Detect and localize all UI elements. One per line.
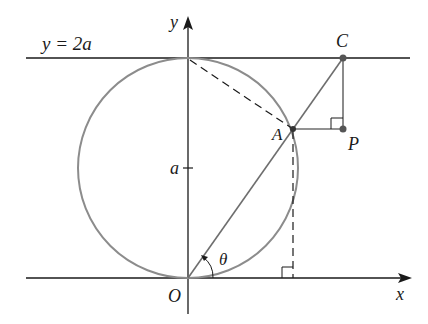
- label-A: A: [271, 125, 283, 144]
- label-origin: O: [168, 286, 181, 306]
- label-C: C: [336, 31, 349, 51]
- point-P: [340, 126, 347, 133]
- diagram-canvas: y = 2a y x O a A C P θ: [0, 0, 428, 324]
- label-line-eq: y = 2a: [40, 33, 92, 54]
- right-angle-marker-foot: [282, 267, 293, 278]
- label-x-axis: x: [395, 284, 404, 304]
- point-A: [290, 126, 296, 132]
- label-P: P: [347, 134, 359, 154]
- label-a: a: [170, 158, 179, 178]
- label-y-axis: y: [168, 12, 178, 32]
- point-C: [340, 55, 347, 62]
- label-theta: θ: [219, 250, 227, 269]
- dashed-top-to-A: [190, 60, 293, 129]
